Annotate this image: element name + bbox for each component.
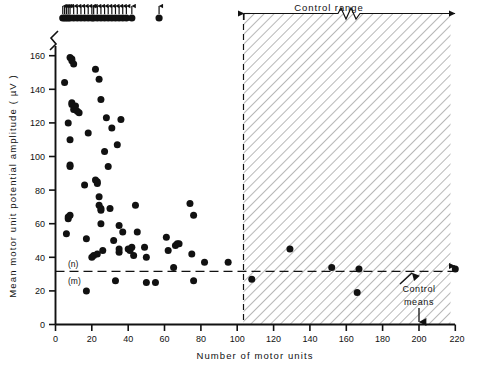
data-point [83,287,90,294]
xtick-20: 20 [87,334,97,344]
data-point [286,245,293,252]
n-label: (n) [68,259,79,269]
data-point [112,277,119,284]
data-point [103,114,110,121]
xtick-0: 0 [53,334,58,344]
data-point [170,264,177,271]
data-point [63,230,70,237]
xtick-120: 120 [266,334,281,344]
control-means-line1: Control [402,284,435,294]
data-point [107,205,114,212]
plot-svg: Control range 0 20 40 60 [0,0,478,373]
data-point [70,61,77,68]
y-axis-ticks: 0 20 40 60 80 100 120 140 160 [30,51,56,330]
ytick-100: 100 [30,152,45,162]
data-point [201,259,208,266]
data-point [143,254,150,261]
data-point [67,163,74,170]
data-point [186,200,193,207]
ytick-40: 40 [35,253,45,263]
xtick-200: 200 [411,334,426,344]
data-point [97,96,104,103]
data-point [354,289,361,296]
data-point [105,163,112,170]
data-point [248,276,255,283]
x-axis-ticks: 0 20 40 60 80 100 120 140 160 180 200 22… [53,325,465,345]
data-point [81,182,88,189]
data-point [110,237,117,244]
data-point [76,109,83,116]
control-range-region [244,14,451,324]
data-point [101,148,108,155]
xtick-180: 180 [375,334,390,344]
xtick-40: 40 [123,334,133,344]
offscale-point-layer [59,6,163,22]
data-point [99,247,106,254]
data-point [65,119,72,126]
data-point [190,212,197,219]
data-point [141,244,148,251]
data-point [83,235,90,242]
data-point [61,79,68,86]
data-point [165,247,172,254]
y-axis-break-icon [50,31,58,50]
ytick-120: 120 [30,118,45,128]
ytick-0: 0 [40,320,45,330]
data-point [130,252,137,259]
ytick-20: 20 [35,286,45,296]
data-point [97,220,104,227]
data-point [94,178,101,185]
figure-scatter-plot: Control range 0 20 40 60 [0,0,478,373]
xtick-140: 140 [302,334,317,344]
control-range-label: Control range [294,2,363,13]
offscale-data-point [128,14,135,21]
data-point [97,205,104,212]
data-point [108,124,115,131]
data-point [328,264,335,271]
data-point [132,202,139,209]
data-point [96,193,103,200]
data-point [96,76,103,83]
xtick-60: 60 [159,334,169,344]
data-point [92,66,99,73]
data-point [190,277,197,284]
data-point [143,279,150,286]
xtick-100: 100 [230,334,245,344]
x-axis-label: Number of motor units [196,350,313,361]
data-point [128,244,135,251]
data-point [67,136,74,143]
data-point [152,279,159,286]
xtick-160: 160 [339,334,354,344]
data-point [163,234,170,241]
data-point [355,266,362,273]
data-point [116,245,123,252]
control-means-line2: means [404,297,434,307]
data-point [225,259,232,266]
ytick-160: 160 [30,51,45,61]
offscale-data-point [155,14,162,21]
xtick-220: 220 [449,334,464,344]
data-point [114,141,121,148]
ytick-80: 80 [35,186,45,196]
xtick-80: 80 [196,334,206,344]
data-point [119,229,126,236]
data-point [452,266,459,273]
data-point [134,229,141,236]
ytick-140: 140 [30,85,45,95]
data-point [67,212,74,219]
data-point [188,250,195,257]
ytick-60: 60 [35,219,45,229]
data-point [176,240,183,247]
data-point [85,129,92,136]
data-point [117,116,124,123]
data-point [116,222,123,229]
y-axis-label: Mean motor unit potential amplitude ( µV… [7,74,18,297]
m-label: (m) [68,276,81,286]
